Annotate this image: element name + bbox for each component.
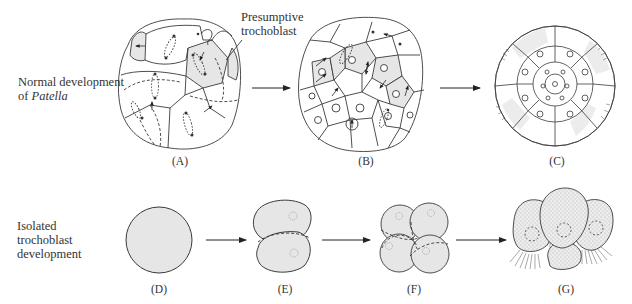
cilia-cluster-g	[510, 188, 613, 269]
panel-label-e: (E)	[265, 283, 305, 295]
cell-f	[380, 203, 449, 273]
panel-label-d: (D)	[139, 283, 179, 295]
callout-presumptive-trochoblast: Presumptive trochoblast	[241, 10, 304, 38]
row-label-normal-line2: of Patella	[18, 89, 124, 103]
cell-d	[126, 207, 192, 273]
row-label-isolated-line3: development	[17, 247, 82, 261]
callout-line2: trochoblast	[241, 24, 304, 38]
species-name: Patella	[32, 89, 68, 103]
embryo-a	[118, 19, 240, 149]
callout-line1: Presumptive	[241, 10, 304, 24]
row-label-isolated-line2: trochoblast	[17, 233, 82, 247]
panel-label-f: (F)	[394, 283, 434, 295]
row-label-normal-line1: Normal development	[18, 75, 124, 89]
embryo-b	[298, 17, 424, 151]
panel-label-a: (A)	[160, 155, 200, 167]
row-label-isolated: Isolated trochoblast development	[17, 219, 82, 261]
row-label-isolated-line1: Isolated	[17, 219, 82, 233]
panel-label-g: (G)	[546, 283, 586, 295]
row-label-normal: Normal development of Patella	[18, 75, 124, 103]
embryo-c	[495, 26, 615, 146]
diagram-canvas	[0, 0, 632, 304]
panel-label-b: (B)	[346, 155, 386, 167]
cell-e	[253, 200, 311, 272]
panel-label-c: (C)	[537, 155, 577, 167]
